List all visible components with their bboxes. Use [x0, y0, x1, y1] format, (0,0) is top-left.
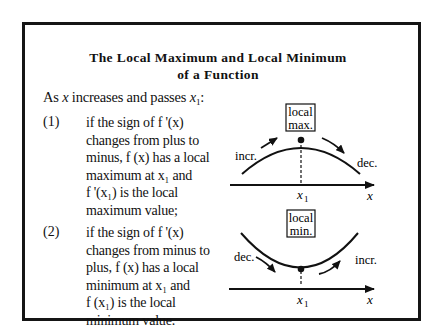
x1-label-2: x	[296, 292, 303, 307]
dec-arrow-icon	[322, 138, 344, 153]
x1-sub-1: 1	[304, 194, 309, 204]
incr-label-2: incr.	[355, 253, 377, 267]
local-min-point	[298, 266, 305, 273]
local-min-graph: local min. dec. incr. x 1 x	[229, 210, 377, 309]
local-min-box-label-2: min.	[290, 224, 313, 238]
local-min-curve	[241, 233, 358, 268]
local-min-box-label-1: local	[289, 211, 314, 225]
local-max-box-label-1: local	[288, 105, 313, 119]
dec-label: dec.	[357, 156, 377, 170]
x1-label-1: x	[296, 187, 303, 202]
local-max-point	[298, 137, 305, 144]
x1-sub-2: 1	[304, 299, 309, 309]
dec-label-2: dec.	[234, 250, 254, 264]
local-max-box-label-2: max.	[288, 118, 313, 132]
graphs-svg: local max. incr. dec. x 1 x local min. d…	[0, 0, 436, 332]
incr-label: incr.	[235, 149, 257, 163]
incr-arrow-icon	[261, 138, 277, 148]
local-max-graph: local max. incr. dec. x 1 x	[230, 104, 377, 204]
axis-x-label-2: x	[366, 292, 373, 307]
axis-x-label-1: x	[366, 188, 373, 203]
